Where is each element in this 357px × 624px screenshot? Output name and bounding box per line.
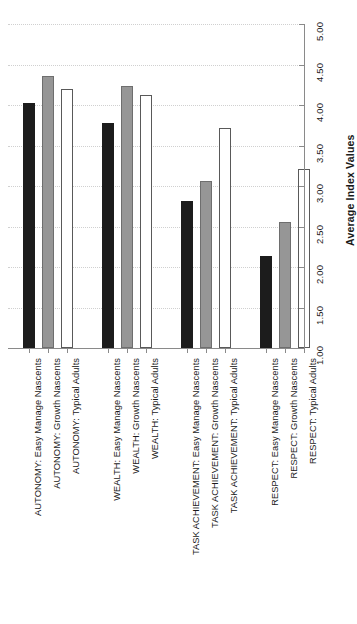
bar [219, 128, 231, 348]
category-label: RESPECT: Easy Manage Nascents [270, 358, 280, 506]
category-axis-tick [304, 348, 305, 353]
category-axis-tick [266, 348, 267, 353]
y-axis-tick [299, 227, 304, 228]
y-axis-tick-label: 4.50 [314, 62, 325, 81]
gridline [8, 24, 304, 25]
y-axis-tick [299, 65, 304, 66]
gridline [8, 65, 304, 66]
bar [181, 201, 193, 348]
bar [61, 89, 73, 348]
y-axis-spine [304, 24, 305, 349]
y-axis-tick-label: 3.00 [314, 184, 325, 203]
category-label: RESPECT: Growth Nascents [289, 358, 299, 479]
bar-chart-figure: 1.001.502.002.503.003.504.004.505.00 Ave… [0, 0, 357, 624]
category-axis-tick [48, 348, 49, 353]
y-axis-tick-label: 5.00 [314, 22, 325, 41]
bar [140, 95, 152, 348]
y-axis-tick-label: 1.50 [314, 305, 325, 324]
y-axis-tick [299, 24, 304, 25]
bar [102, 123, 114, 348]
y-axis-tick [299, 105, 304, 106]
y-axis-tick-label: 4.00 [314, 103, 325, 122]
y-axis-title: Average Index Values [344, 134, 356, 246]
bar [260, 256, 272, 348]
category-label: RESPECT: Typical Adults [308, 358, 318, 464]
category-axis-tick [146, 348, 147, 353]
y-axis-tick [299, 146, 304, 147]
category-label: TASK ACHIEVEMENT: Easy Manage Nascents [191, 358, 201, 555]
bar [42, 76, 54, 348]
category-label: AUTONOMY: Easy Manage Nascents [33, 358, 43, 516]
category-axis-tick [108, 348, 109, 353]
category-axis-tick [29, 348, 30, 353]
category-label: TASK ACHIEVEMENT: Typical Adults [229, 358, 239, 513]
category-label: WEALTH: Typical Adults [150, 358, 160, 459]
y-axis-tick [299, 308, 304, 309]
y-axis-tick-label: 2.00 [314, 265, 325, 284]
category-label: TASK ACHIEVEMENT: Growth Nascents [210, 358, 220, 528]
bar [200, 181, 212, 348]
y-axis-tick-label: 3.50 [314, 143, 325, 162]
category-label: AUTONOMY: Growth Nascents [52, 358, 62, 489]
y-axis-tick [299, 186, 304, 187]
category-axis-tick [67, 348, 68, 353]
category-label: AUTONOMY: Typical Adults [71, 358, 81, 474]
category-axis-line [8, 348, 305, 349]
bar [121, 86, 133, 348]
category-axis-tick [127, 348, 128, 353]
category-axis-tick [187, 348, 188, 353]
category-axis-tick [206, 348, 207, 353]
category-label: WEALTH: Growth Nascents [131, 358, 141, 474]
bar [23, 103, 35, 348]
category-axis-tick [285, 348, 286, 353]
category-label: WEALTH: Easy Manage Nascents [112, 358, 122, 501]
category-axis-tick [225, 348, 226, 353]
y-axis-tick-label: 2.50 [314, 224, 325, 243]
bar [279, 222, 291, 348]
y-axis-tick [299, 267, 304, 268]
